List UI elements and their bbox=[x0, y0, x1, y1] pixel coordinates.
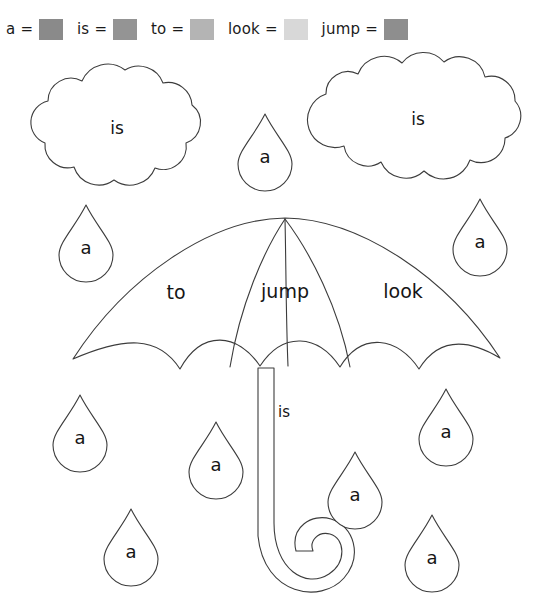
raindrop-bottom-left-shape[interactable] bbox=[104, 509, 158, 586]
raindrop-top-center-shape[interactable] bbox=[238, 114, 292, 191]
raindrop-mid-right-shape[interactable] bbox=[419, 389, 473, 466]
raindrop-lower-left-shape[interactable] bbox=[53, 395, 107, 472]
raindrop-upper-right-shape[interactable] bbox=[453, 199, 507, 276]
raindrop-upper-left-shape[interactable] bbox=[59, 205, 113, 282]
worksheet-page: a = is = to = look = jump = bbox=[0, 0, 535, 612]
raindrop-mid-left-shape[interactable] bbox=[189, 422, 243, 499]
raindrop-bottom-right-shape[interactable] bbox=[405, 515, 459, 592]
cloud-right-shape[interactable] bbox=[308, 52, 521, 178]
coloring-artwork bbox=[0, 0, 535, 612]
raindrop-lower-right-shape[interactable] bbox=[328, 452, 382, 529]
cloud-left-shape[interactable] bbox=[31, 64, 201, 185]
